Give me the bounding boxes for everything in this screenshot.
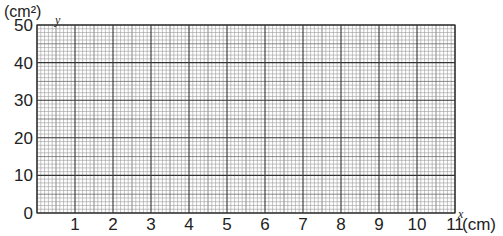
x-tick-label: 7 bbox=[291, 216, 315, 233]
x-tick-label: 5 bbox=[215, 216, 239, 233]
y-tick-label: 10 bbox=[3, 167, 33, 184]
x-tick-label: 2 bbox=[101, 216, 125, 233]
graph-paper bbox=[0, 0, 503, 236]
y-tick-label: 50 bbox=[3, 17, 33, 34]
x-tick-label: 4 bbox=[177, 216, 201, 233]
x-tick-label: 9 bbox=[367, 216, 391, 233]
x-tick-label: 3 bbox=[139, 216, 163, 233]
x-tick-label: 8 bbox=[329, 216, 353, 233]
x-tick-label: 6 bbox=[253, 216, 277, 233]
y-tick-label: 20 bbox=[3, 130, 33, 147]
y-tick-label: 0 bbox=[3, 205, 33, 222]
x-tick-label: 10 bbox=[405, 216, 429, 233]
y-axis-label: y bbox=[55, 12, 60, 29]
y-tick-label: 40 bbox=[3, 55, 33, 72]
minor-grid bbox=[37, 25, 455, 213]
x-unit-label: (cm) bbox=[462, 216, 496, 233]
x-tick-label: 1 bbox=[63, 216, 87, 233]
y-tick-label: 30 bbox=[3, 92, 33, 109]
